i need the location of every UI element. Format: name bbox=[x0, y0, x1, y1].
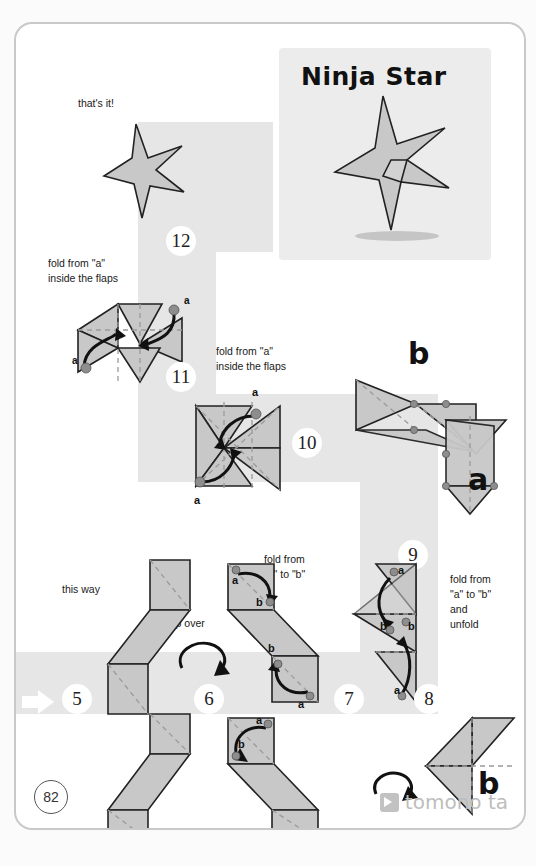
step-number-5: 5 bbox=[62, 684, 92, 714]
marker-a: a bbox=[232, 574, 239, 586]
marker-a: a bbox=[298, 698, 305, 710]
marker-b: b bbox=[238, 738, 245, 750]
brand-text: tomono ta bbox=[405, 790, 508, 814]
note-fold-inside-flaps-2: fold from "a" inside the flaps bbox=[216, 344, 286, 374]
step-12-diagram bbox=[96, 114, 226, 224]
start-arrow-icon bbox=[22, 690, 56, 714]
marker-a: a bbox=[184, 295, 190, 306]
step-5-diagram bbox=[76, 552, 206, 722]
note-thats-it: that's it! bbox=[78, 96, 114, 111]
marker-b: b bbox=[380, 620, 387, 632]
title-panel: Ninja Star bbox=[279, 48, 491, 260]
step-8-diagram: a b b a bbox=[346, 544, 466, 734]
tomonota-logo-icon bbox=[380, 793, 399, 812]
marker-a: a bbox=[252, 386, 259, 398]
big-label-b-top: b bbox=[408, 336, 429, 371]
marker-a: a bbox=[194, 494, 201, 506]
instruction-page: Ninja Star that's it! 12 fold from "a" i… bbox=[14, 22, 526, 830]
step-number-8: 8 bbox=[414, 684, 444, 714]
marker-b: b bbox=[256, 596, 263, 608]
brand: tomono ta bbox=[380, 790, 508, 814]
step-6-diagram: a b bbox=[212, 714, 342, 830]
marker-b: b bbox=[268, 642, 275, 654]
big-label-a-mid: a bbox=[468, 462, 488, 497]
step-5-diagram-lower bbox=[76, 714, 206, 830]
marker-a: a bbox=[256, 714, 263, 726]
step-number-10: 10 bbox=[292, 428, 322, 458]
step-number-7: 7 bbox=[334, 684, 364, 714]
finished-star-illustration bbox=[279, 48, 491, 260]
marker-a: a bbox=[72, 355, 78, 366]
marker-b: b bbox=[408, 620, 415, 632]
page-number: 82 bbox=[34, 780, 68, 814]
marker-a: a bbox=[398, 564, 405, 576]
step-number-12: 12 bbox=[166, 226, 196, 256]
marker-a: a bbox=[394, 684, 401, 696]
step-11-diagram: a a bbox=[64, 282, 224, 392]
